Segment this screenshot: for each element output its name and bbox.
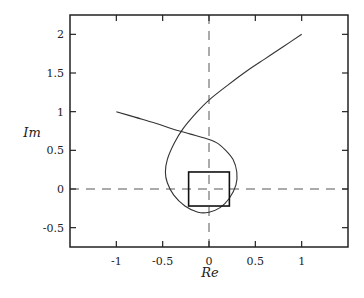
y-axis-title: Im xyxy=(22,125,40,140)
x-tick-label: -0.5 xyxy=(152,255,173,268)
x-tick-label: 1 xyxy=(298,255,305,268)
x-axis-title: Re xyxy=(200,265,219,280)
data-series xyxy=(116,34,301,213)
x-tick-label: 0.5 xyxy=(247,255,265,268)
series-line xyxy=(116,34,301,213)
y-tick-label: 1.5 xyxy=(47,67,65,80)
y-axis-ticks: -0.500.511.52 xyxy=(43,28,348,234)
x-tick-label: -1 xyxy=(111,255,122,268)
x-axis-ticks: -1-0.500.51 xyxy=(111,15,305,268)
chart: -1-0.500.51 -0.500.511.52 Re Im xyxy=(0,0,364,298)
y-tick-label: 1 xyxy=(57,106,64,119)
y-tick-label: 2 xyxy=(57,28,64,41)
y-tick-label: 0 xyxy=(57,183,64,196)
y-tick-label: 0.5 xyxy=(47,144,65,157)
y-tick-label: -0.5 xyxy=(43,222,64,235)
